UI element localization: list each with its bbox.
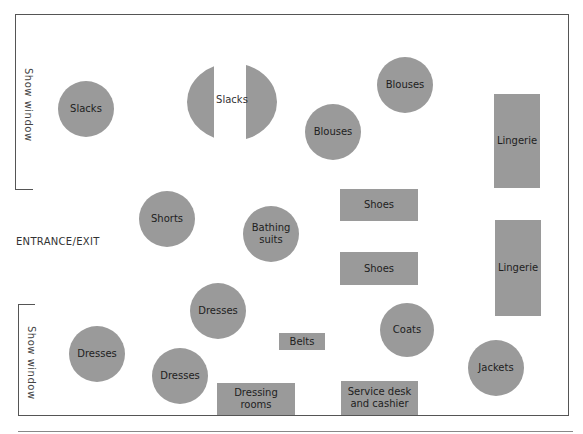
wall-left-lower <box>18 304 19 416</box>
fixture-dresses-2: Dresses <box>69 326 125 382</box>
fixture-coats: Coats <box>380 303 434 357</box>
fixture-belts: Belts <box>279 333 325 350</box>
fixture-shorts: Shorts <box>139 191 195 247</box>
fixture-slacks-split-rack: Slacks <box>187 63 277 141</box>
fixture-label: Shoes <box>364 199 394 211</box>
fixture-label: Shorts <box>151 213 183 225</box>
fixture-label: Lingerie <box>497 135 537 147</box>
fixture-blouses-2: Blouses <box>305 104 361 160</box>
split-rack-label: Slacks <box>187 94 277 105</box>
fixture-label: Lingerie <box>498 262 538 274</box>
fixture-dressing-rooms: Dressing rooms <box>217 383 295 415</box>
wall-left-upper-stub <box>15 189 33 190</box>
wall-left-lower-stub <box>18 304 35 305</box>
entrance-exit-label: ENTRANCE/EXIT <box>16 236 100 247</box>
fixture-label: Coats <box>393 324 421 336</box>
fixture-dresses-1: Dresses <box>190 283 246 339</box>
fixture-label: Bathing suits <box>252 222 291 246</box>
fixture-slacks-1: Slacks <box>58 81 114 137</box>
show-window-bottom-label: Show window <box>26 326 37 400</box>
fixture-jackets: Jackets <box>468 340 524 396</box>
show-window-top-label: Show window <box>23 68 34 142</box>
fixture-label: Shoes <box>364 263 394 275</box>
fixture-label: Dresses <box>198 305 238 317</box>
fixture-label: Belts <box>290 336 315 348</box>
fixture-label: Jackets <box>478 362 513 374</box>
fixture-shoes-2: Shoes <box>340 252 418 285</box>
fixture-shoes-1: Shoes <box>340 189 418 221</box>
page-separator-line <box>18 431 573 432</box>
fixture-label: Dresses <box>160 370 200 382</box>
wall-bottom <box>18 415 569 416</box>
wall-top <box>15 14 569 15</box>
wall-left-upper <box>15 14 16 190</box>
fixture-label: Blouses <box>314 126 353 138</box>
fixture-blouses-1: Blouses <box>377 57 433 113</box>
wall-right <box>568 14 569 416</box>
fixture-label: Service desk and cashier <box>348 386 412 410</box>
fixture-service-desk: Service desk and cashier <box>341 381 418 415</box>
fixture-label: Slacks <box>70 103 102 115</box>
fixture-dresses-3: Dresses <box>152 348 208 404</box>
fixture-label: Dressing rooms <box>234 387 278 411</box>
fixture-lingerie-1: Lingerie <box>494 94 540 188</box>
fixture-bathing-suits: Bathing suits <box>243 206 299 262</box>
fixture-label: Dresses <box>77 348 117 360</box>
fixture-lingerie-2: Lingerie <box>495 220 541 316</box>
fixture-label: Blouses <box>386 79 425 91</box>
